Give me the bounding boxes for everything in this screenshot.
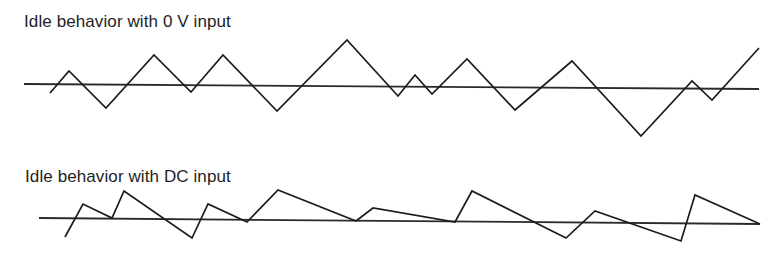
panel-dc-input — [39, 190, 760, 241]
dc-reference-line — [39, 218, 760, 224]
panel-zero-volt-input — [24, 40, 759, 136]
idle-sawtooth-waveform — [65, 190, 760, 241]
idle-behavior-diagram — [0, 0, 779, 261]
